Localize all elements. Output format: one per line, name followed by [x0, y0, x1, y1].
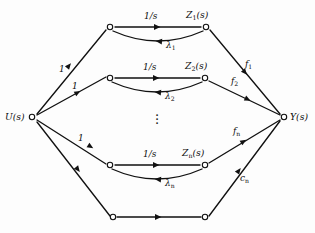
node-label-z2-arg: (s) [195, 60, 207, 71]
edge-label-f1: f1 [245, 60, 252, 70]
arrowhead-branch2-y [244, 96, 252, 104]
branch-1-group [113, 24, 203, 44]
edge-label-integrator-2: 1/s [143, 63, 156, 72]
edge-label-gain-1b: 1 [72, 82, 78, 91]
edge-label-lambda2: λ2 [165, 92, 175, 102]
branch-2-group [112, 75, 202, 95]
edge-feedback-lambda2 [112, 82, 202, 92]
arrowhead-integrator-2 [153, 75, 159, 81]
output-edges-group [209, 30, 280, 216]
arrowhead-direct-bottom [155, 214, 161, 220]
edge-label-f2: f2 [231, 77, 238, 87]
arrowhead-feedback-n [154, 176, 161, 182]
cn-sub: n [245, 177, 249, 184]
edge-u-to-direct [37, 122, 110, 216]
signal-flow-graph-figure: U(s) Y(s) Z1(s) Z2(s) Zn(s) 1/s 1/s 1/s … [0, 0, 315, 233]
node-label-y-arg: (s) [296, 111, 308, 122]
edge-label-integrator-n: 1/s [143, 150, 156, 159]
edge-u-to-branch1 [37, 30, 106, 114]
node-branch1-input[interactable] [107, 24, 112, 29]
node-z2[interactable] [202, 75, 207, 80]
edge-label-gain-1c: 1 [78, 134, 84, 143]
node-direct-right[interactable] [202, 214, 207, 219]
edge-feedback-lambda1 [113, 31, 203, 41]
node-label-z2: Z2(s) [185, 61, 207, 72]
edge-feedback-lambdan [112, 169, 202, 179]
edge-label-lambda1: λ1 [166, 41, 176, 51]
direct-path-group [117, 214, 201, 220]
edge-label-lambdan: λn [165, 179, 175, 189]
arrowhead-u-direct [74, 165, 82, 173]
arrowhead-integrator-1 [154, 24, 160, 30]
node-branch2-input[interactable] [107, 75, 112, 80]
node-label-u-base: U [5, 111, 13, 122]
edge-u-to-branchn [37, 120, 106, 164]
edge-direct-to-y [209, 121, 280, 216]
node-u[interactable] [29, 114, 34, 119]
node-branchn-input[interactable] [107, 162, 112, 167]
node-z1[interactable] [203, 24, 208, 29]
node-label-zn: Zn(s) [182, 148, 204, 159]
input-edge-arrowheads [65, 61, 95, 173]
edge-label-integrator-1: 1/s [144, 12, 157, 21]
lambda2-sub: 2 [171, 95, 175, 102]
lambda1-sub: 1 [172, 44, 176, 51]
node-label-y: Y(s) [290, 112, 308, 121]
node-label-zn-arg: (s) [192, 147, 204, 158]
fn-sub: n [236, 130, 240, 137]
lambdan-sub: n [171, 182, 175, 189]
arrowhead-integrator-n [153, 162, 159, 168]
input-edges-group [37, 30, 110, 216]
edge-branch2-to-y [209, 81, 280, 115]
branch-n-group [112, 162, 202, 182]
node-label-z1-arg: (s) [196, 9, 208, 20]
ellipsis-dot-3: · [153, 122, 161, 126]
edge-label-gain-1a: 1 [59, 65, 65, 74]
node-label-u-arg: (s) [13, 111, 25, 122]
edge-label-fn: fn [233, 127, 240, 137]
vertical-ellipsis: · · · [153, 114, 161, 126]
node-direct-left[interactable] [110, 214, 115, 219]
node-zn[interactable] [202, 162, 207, 167]
arrowhead-u-branch1 [65, 61, 73, 69]
arrowhead-u-branchn [87, 143, 95, 151]
node-y[interactable] [281, 114, 286, 119]
arrowhead-feedback-1 [155, 38, 162, 44]
arrowhead-feedback-2 [154, 89, 161, 95]
f2-sub: 2 [234, 80, 238, 87]
node-label-u: U(s) [5, 112, 25, 121]
node-label-z1: Z1(s) [186, 10, 208, 21]
edge-label-cn: cn [240, 174, 249, 184]
f1-sub: 1 [248, 63, 252, 70]
